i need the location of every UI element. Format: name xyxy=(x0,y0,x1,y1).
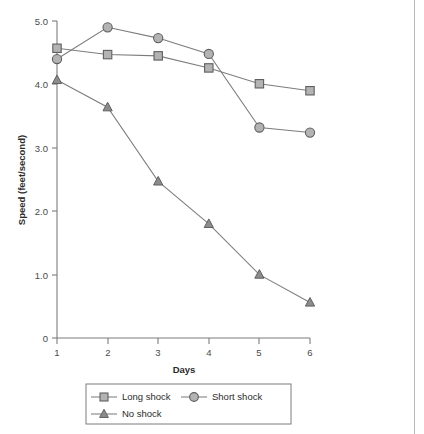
y-axis-ticks xyxy=(52,21,57,338)
x-tick-label: 2 xyxy=(105,347,110,358)
page-border-divider xyxy=(414,0,415,434)
data-point-square xyxy=(154,52,162,60)
series-no-shock xyxy=(52,75,314,306)
data-point-square xyxy=(255,80,263,88)
legend-item-label: No shock xyxy=(122,408,162,419)
legend-item-short-shock[interactable]: Short shock xyxy=(181,391,262,402)
y-axis-title: Speed (feet/second) xyxy=(16,135,27,225)
x-tick-label: 4 xyxy=(206,347,211,358)
chart-legend: Long shockShort shockNo shock xyxy=(86,384,291,424)
x-axis-tick-labels: 1 2 3 4 5 6 xyxy=(54,347,312,358)
y-tick-label: 1.0 xyxy=(35,270,48,281)
data-point-square xyxy=(53,44,61,52)
data-point-triangle xyxy=(52,75,61,84)
x-tick-label: 5 xyxy=(256,347,261,358)
data-point-circle xyxy=(255,123,264,132)
data-point-triangle xyxy=(154,176,163,185)
y-tick-label: 4.0 xyxy=(35,79,48,90)
x-tick-label: 3 xyxy=(155,347,160,358)
series-line xyxy=(57,80,310,303)
legend-item-label: Long shock xyxy=(122,391,171,402)
data-point-circle xyxy=(154,34,163,43)
data-point-circle xyxy=(204,49,213,58)
data-point-circle xyxy=(190,393,199,402)
data-point-circle xyxy=(103,23,112,32)
series-line xyxy=(57,27,310,132)
y-axis-tick-labels: 5.0 4.0 3.0 2.0 1.0 0 xyxy=(35,16,48,344)
series-line xyxy=(57,48,310,90)
line-chart-figure: 5.0 4.0 3.0 2.0 1.0 0 1 2 3 4 xyxy=(0,0,414,434)
data-point-triangle xyxy=(305,298,314,307)
data-point-square xyxy=(205,64,213,72)
series-layer xyxy=(52,23,314,306)
data-point-square xyxy=(306,87,314,95)
x-axis-ticks xyxy=(57,338,310,344)
x-axis-title: Days xyxy=(173,364,196,375)
series-long-shock xyxy=(53,44,314,95)
data-point-square xyxy=(103,50,111,58)
y-tick-label: 0 xyxy=(43,333,48,344)
legend-item-label: Short shock xyxy=(212,391,262,402)
data-point-triangle xyxy=(103,102,112,111)
chart-page: 5.0 4.0 3.0 2.0 1.0 0 1 2 3 4 xyxy=(0,0,424,434)
y-tick-label: 3.0 xyxy=(35,143,48,154)
chart-svg: 5.0 4.0 3.0 2.0 1.0 0 1 2 3 4 xyxy=(0,0,414,434)
data-point-circle xyxy=(52,54,61,63)
x-tick-label: 1 xyxy=(54,347,59,358)
legend-item-long-shock[interactable]: Long shock xyxy=(91,391,171,402)
y-tick-label: 5.0 xyxy=(35,16,48,27)
x-tick-label: 6 xyxy=(307,347,312,358)
data-point-triangle xyxy=(204,219,213,228)
data-point-circle xyxy=(305,128,314,137)
data-point-square xyxy=(100,393,108,401)
y-tick-label: 2.0 xyxy=(35,206,48,217)
series-short-shock xyxy=(52,23,314,137)
legend-border xyxy=(86,384,291,424)
